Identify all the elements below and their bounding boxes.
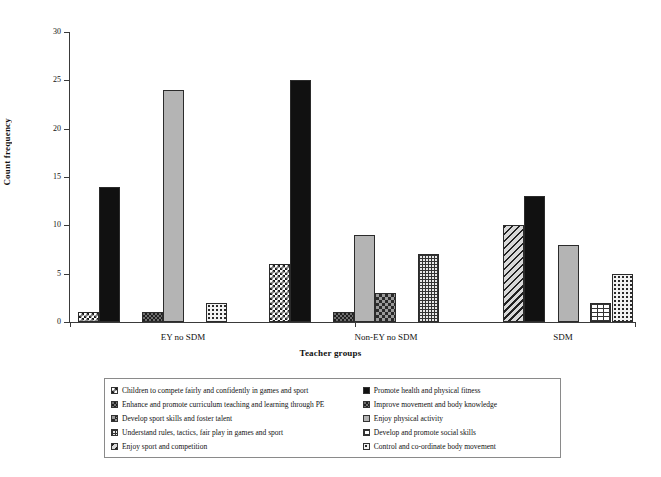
bar: [269, 264, 290, 322]
bar: [590, 303, 611, 322]
y-tick-label: 5: [57, 270, 61, 278]
legend-swatch-icon: [111, 429, 118, 436]
legend: Children to compete fairly and confident…: [104, 378, 561, 458]
legend-label: Enjoy physical activity: [374, 414, 443, 423]
legend-swatch-icon: [363, 415, 370, 422]
plot-area: [69, 32, 635, 322]
bar: [163, 90, 184, 322]
y-tick-label: 25: [53, 76, 61, 84]
legend-item: Enjoy physical activity: [363, 412, 554, 425]
x-tick-mark: [70, 322, 71, 327]
legend-label: Improve movement and body knowledge: [374, 400, 497, 409]
bar: [333, 312, 354, 322]
x-axis-label: Teacher groups: [0, 348, 661, 358]
legend-swatch-icon: [111, 415, 118, 422]
legend-label: Children to compete fairly and confident…: [122, 386, 308, 395]
bar: [418, 254, 439, 322]
legend-label: Promote health and physical fitness: [374, 386, 481, 395]
y-tick-label: 30: [53, 28, 61, 36]
x-tick-mark: [355, 322, 356, 327]
legend-label: Enjoy sport and competition: [122, 442, 207, 451]
y-tick-label: 0: [57, 318, 61, 326]
y-tick-label: 15: [53, 173, 61, 181]
legend-swatch-icon: [363, 401, 370, 408]
legend-swatch-icon: [111, 401, 118, 408]
legend-item: Understand rules, tactics, fair play in …: [111, 426, 363, 439]
y-tick-label: 20: [53, 125, 61, 133]
legend-swatch-icon: [111, 443, 118, 450]
legend-label: Control and co-ordinate body movement: [374, 442, 496, 451]
bar: [612, 274, 633, 322]
legend-item: Develop and promote social skills: [363, 426, 554, 439]
bar: [375, 293, 396, 322]
x-group-label: Non-EY no SDM: [354, 332, 417, 342]
legend-label: Understand rules, tactics, fair play in …: [122, 428, 283, 437]
legend-column-left: Children to compete fairly and confident…: [111, 384, 363, 453]
bar: [290, 80, 311, 322]
legend-swatch-icon: [363, 429, 370, 436]
y-axis-ticks: 051015202530: [0, 32, 69, 323]
bar: [142, 312, 163, 322]
y-tick-label: 10: [53, 221, 61, 229]
bar: [206, 303, 227, 322]
legend-swatch-icon: [111, 387, 118, 394]
legend-item: Control and co-ordinate body movement: [363, 440, 554, 453]
legend-item: Children to compete fairly and confident…: [111, 384, 363, 397]
legend-label: Develop and promote social skills: [374, 428, 476, 437]
legend-item: Improve movement and body knowledge: [363, 398, 554, 411]
x-group-label: SDM: [553, 332, 573, 342]
bar: [503, 225, 524, 322]
bar: [558, 245, 579, 322]
legend-item: Promote health and physical fitness: [363, 384, 554, 397]
legend-item: Enjoy sport and competition: [111, 440, 363, 453]
bar: [99, 187, 120, 322]
legend-swatch-icon: [363, 387, 370, 394]
bar: [78, 312, 99, 322]
legend-label: Develop sport skills and foster talent: [122, 414, 232, 423]
x-tick-mark: [635, 322, 636, 327]
legend-item: Enhance and promote curriculum teaching …: [111, 398, 363, 411]
x-axis-line: [69, 322, 635, 323]
bar: [354, 235, 375, 322]
legend-label: Enhance and promote curriculum teaching …: [122, 400, 324, 409]
legend-column-right: Promote health and physical fitnessImpro…: [363, 384, 554, 453]
legend-swatch-icon: [363, 443, 370, 450]
bar: [524, 196, 545, 322]
legend-item: Develop sport skills and foster talent: [111, 412, 363, 425]
x-group-label: EY no SDM: [161, 332, 206, 342]
bar-chart: Count frequency 051015202530 EY no SDMNo…: [0, 0, 661, 477]
